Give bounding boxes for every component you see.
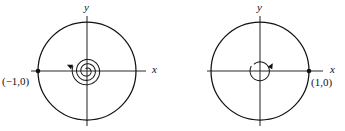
left-panel: x y (−1,0) (2, 1, 157, 126)
right-equilibrium-point-dot (307, 69, 312, 74)
right-panel: x y (1,0) (207, 1, 335, 126)
right-point-coordinate-label: (1,0) (311, 76, 332, 89)
phase-portrait-figure: x y (−1,0) x y (1,0) (0, 0, 345, 131)
left-equilibrium-point-dot (36, 69, 41, 74)
left-inward-spiral-trajectory (72, 59, 99, 84)
left-y-axis-label: y (83, 1, 89, 13)
left-x-axis-label: x (151, 63, 157, 75)
left-axes (31, 16, 146, 126)
right-y-axis-label: y (256, 1, 262, 13)
right-x-axis-label: x (329, 63, 335, 75)
left-point-coordinate-label: (−1,0) (2, 75, 30, 88)
right-axes (207, 16, 323, 126)
phase-portrait-canvas: x y (−1,0) x y (1,0) (0, 0, 345, 131)
